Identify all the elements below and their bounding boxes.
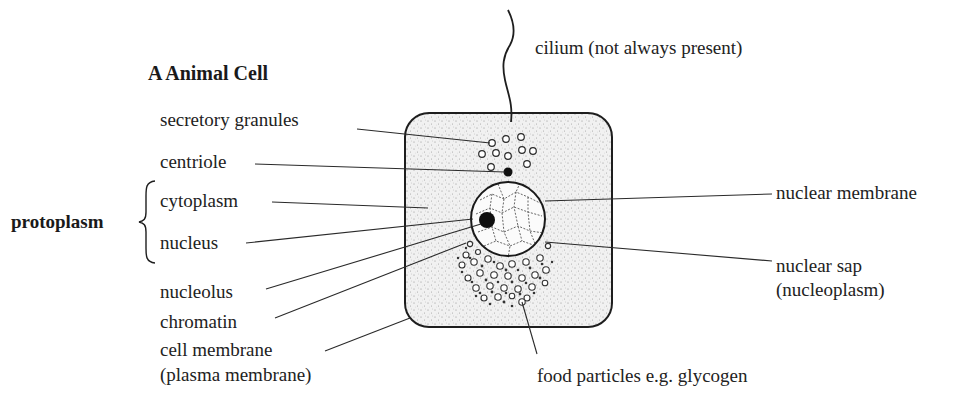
label-chromatin: chromatin — [160, 311, 238, 332]
label-nucleolus: nucleolus — [160, 281, 233, 302]
label-protoplasm: protoplasm — [11, 211, 104, 232]
label-centriole: centriole — [160, 151, 226, 172]
label-secretory-granules: secretory granules — [160, 109, 299, 130]
label-nuclear-sap: nuclear sap — [776, 255, 862, 276]
label-cell-membrane: cell membrane — [160, 339, 272, 360]
label-nucleus: nucleus — [160, 232, 218, 253]
label-cilium: cilium (not always present) — [535, 37, 742, 59]
diagram-title: A Animal Cell — [148, 62, 268, 84]
label-nucleoplasm: (nucleoplasm) — [776, 279, 885, 301]
label-food-particles: food particles e.g. glycogen — [537, 365, 748, 386]
cilium-shape — [503, 10, 513, 122]
protoplasm-brace — [139, 181, 155, 263]
label-plasma-membrane: (plasma membrane) — [160, 364, 311, 386]
nucleolus-shape — [479, 212, 495, 228]
label-cytoplasm: cytoplasm — [160, 190, 238, 211]
label-nuclear-membrane: nuclear membrane — [776, 182, 917, 203]
animal-cell-diagram: A Animal Cell — [0, 0, 969, 401]
